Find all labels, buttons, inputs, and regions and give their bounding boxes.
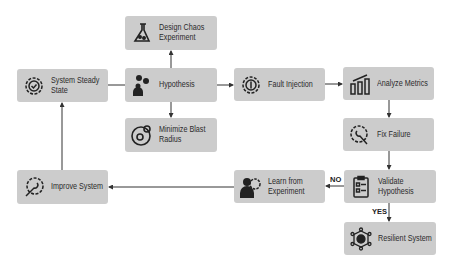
person-gear-icon xyxy=(238,174,264,200)
node-minimize-blast-radius[interactable]: Minimize BlastRadius xyxy=(125,118,217,152)
node-hypothesis[interactable]: Hypothesis xyxy=(125,68,217,102)
blast-radius-icon xyxy=(129,122,155,148)
node-analyze-metrics[interactable]: Analyze Metrics xyxy=(343,67,434,100)
gear-wrench-icon xyxy=(347,122,373,148)
node-fix-failure[interactable]: Fix Failure xyxy=(343,118,434,151)
node-learn-from-experiment[interactable]: Learn fromExperiment xyxy=(234,170,325,203)
person-gears-icon xyxy=(129,72,155,98)
node-validate-hypothesis[interactable]: ValidateHypothesis xyxy=(344,170,436,203)
gear-check-icon xyxy=(21,73,47,99)
flask-icon xyxy=(129,20,155,46)
node-improve-system[interactable]: Improve System xyxy=(17,170,108,204)
node-fault-injection[interactable]: Fault Injection xyxy=(234,68,325,101)
node-system-steady-state[interactable]: System SteadyState xyxy=(17,69,108,102)
gear-power-icon xyxy=(238,72,264,98)
bar-chart-icon xyxy=(347,71,373,97)
gear-wrench-icon xyxy=(21,174,47,200)
yes-label: YES xyxy=(372,207,387,216)
clipboard-icon xyxy=(348,174,374,200)
node-design-chaos-experiment[interactable]: Design ChaosExperiment xyxy=(125,16,217,50)
no-label: NO xyxy=(330,175,341,184)
node-resilient-system[interactable]: Resilient System xyxy=(344,222,436,255)
network-gear-icon xyxy=(348,226,374,252)
